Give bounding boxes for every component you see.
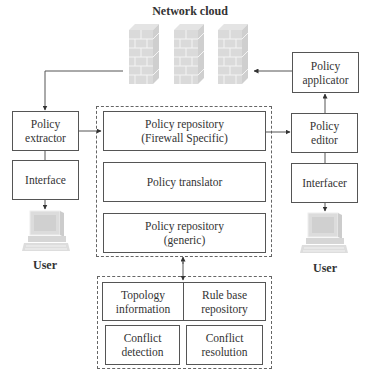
conflict-resolution-box: Conflict resolution [186, 325, 263, 365]
firewall-icon [218, 24, 250, 84]
rule-base-repository-box: Rule base repository [183, 282, 266, 321]
policy-repository-firewall-box: Policy repository (Firewall Specific) [103, 111, 266, 151]
interface-box: Interface [12, 160, 79, 200]
policy-translator-box: Policy translator [103, 162, 266, 202]
policy-extractor-box: Policy extractor [12, 111, 79, 151]
conflict-detection-box: Conflict detection [105, 325, 180, 365]
policy-applicator-box: Policy applicator [292, 52, 359, 93]
interfacer-box: Interfacer [291, 163, 358, 203]
computer-icon [22, 209, 72, 255]
user-label-right: User [302, 261, 348, 276]
firewall-icon [129, 24, 161, 84]
policy-repository-generic-box: Policy repository (generic) [103, 213, 266, 253]
user-label-left: User [22, 258, 68, 273]
network-cloud-label: Network cloud [150, 4, 230, 19]
policy-editor-box: Policy editor [291, 113, 358, 153]
firewall-icon [174, 24, 206, 84]
computer-icon [300, 211, 350, 257]
topology-information-box: Topology information [102, 282, 184, 321]
